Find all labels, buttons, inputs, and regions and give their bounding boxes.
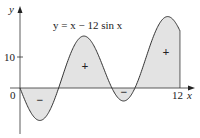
sign-plus-1: + [82,59,89,73]
y-tick-label-10: 10 [4,51,16,63]
x-axis-label: x [186,89,192,101]
x-tick-label-12: 12 [172,89,183,101]
y-axis-label: y [8,3,14,15]
sign-minus-2: − [121,85,128,99]
sign-plus-2: + [163,45,170,59]
x-tick-label-0: 0 [10,89,16,101]
chart: y x 10 0 12 y = x − 12 sin x − + − + [0,0,200,138]
sign-minus-1: − [37,93,44,107]
shaded-area [20,17,180,121]
equation-label: y = x − 12 sin x [53,19,123,31]
y-axis-arrow-icon [18,6,23,13]
